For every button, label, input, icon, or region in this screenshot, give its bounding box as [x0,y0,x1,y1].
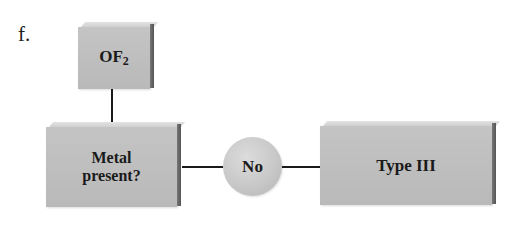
connector-answer-result [282,166,320,168]
answer-label: No [242,157,263,177]
problem-label: f. [18,22,30,47]
compound-formula: OF2 [99,47,129,69]
answer-no-node: No [223,137,282,196]
compound-node: OF2 [78,27,150,89]
result-type-node: Type III [320,126,492,205]
question-line-1: Metal [92,149,132,167]
connector-question-answer [182,166,223,168]
metal-question-node: Metal present? [46,127,177,207]
question-line-2: present? [82,167,140,185]
result-label: Type III [376,156,436,176]
